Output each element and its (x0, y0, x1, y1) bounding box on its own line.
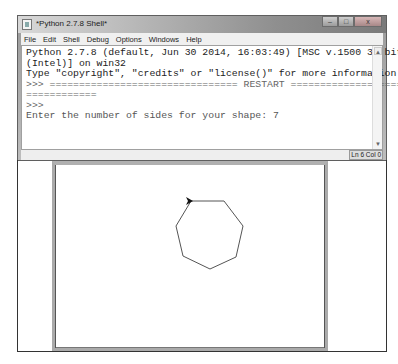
restart-line-cont: ============ (26, 90, 398, 101)
turtle-graphics-window (52, 161, 328, 351)
maximize-button[interactable]: □ (338, 16, 354, 27)
scroll-up-arrow-icon[interactable]: ▲ (374, 47, 382, 55)
menu-shell[interactable]: Shell (63, 35, 80, 44)
shell-output: Python 2.7.8 (default, Jun 30 2014, 16:0… (26, 48, 398, 122)
status-bar: Ln 6 Col 0 (21, 150, 383, 160)
menu-file[interactable]: File (24, 35, 36, 44)
window-controls: – □ x (322, 16, 382, 28)
menu-edit[interactable]: Edit (43, 35, 56, 44)
output-line: Python 2.7.8 (default, Jun 30 2014, 16:0… (26, 48, 398, 59)
shell-text-area[interactable]: Python 2.7.8 (default, Jun 30 2014, 16:0… (21, 45, 383, 150)
window-title: *Python 2.7.8 Shell* (36, 19, 107, 28)
python-app-icon (22, 19, 32, 30)
cursor-position: Ln 6 Col 0 (349, 150, 383, 160)
input-prompt-line: Enter the number of sides for your shape… (26, 111, 398, 122)
menu-bar: File Edit Shell Debug Options Windows He… (21, 33, 383, 45)
turtle-canvas (55, 165, 325, 348)
close-button[interactable]: x (354, 16, 382, 27)
title-bar[interactable]: *Python 2.7.8 Shell* – □ x (18, 16, 386, 33)
menu-help[interactable]: Help (186, 35, 201, 44)
scroll-down-arrow-icon[interactable]: ▼ (374, 140, 382, 148)
menu-windows[interactable]: Windows (149, 35, 179, 44)
heptagon-shape (176, 201, 243, 269)
menu-debug[interactable]: Debug (87, 35, 109, 44)
output-line: Type "copyright", "credits" or "license(… (26, 69, 398, 80)
python-shell-window: *Python 2.7.8 Shell* – □ x File Edit She… (17, 15, 387, 161)
menu-options[interactable]: Options (116, 35, 142, 44)
minimize-button[interactable]: – (322, 16, 338, 27)
vertical-scrollbar[interactable]: ▲ ▼ (372, 46, 382, 149)
